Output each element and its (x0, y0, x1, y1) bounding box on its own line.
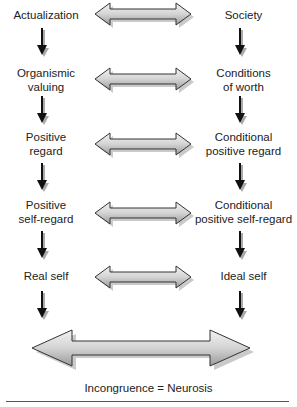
double-arrow-icon (95, 3, 194, 28)
down-arrow-icon (235, 231, 247, 260)
label-conditional-positive-regard: Conditional positive regard (190, 130, 297, 158)
label-real-self: Real self (0, 269, 92, 283)
large-double-arrow-icon (32, 330, 254, 370)
down-arrow-icon (37, 291, 49, 320)
bottom-divider (6, 401, 289, 402)
double-arrow-icon (95, 68, 194, 93)
double-arrow-icon (95, 266, 194, 291)
label-positive-self-regard: Positive self-regard (0, 198, 92, 226)
down-arrow-icon (37, 231, 49, 260)
down-arrow-icon (37, 163, 49, 192)
label-ideal-self: Ideal self (190, 269, 297, 283)
down-arrow-icon (37, 96, 49, 125)
label-positive-regard: Positive regard (0, 130, 92, 158)
down-arrow-icon (235, 291, 247, 320)
caption-incongruence: Incongruence = Neurosis (0, 382, 297, 394)
down-arrow-icon (235, 28, 247, 57)
down-arrow-icon (37, 28, 49, 57)
down-arrow-icon (235, 96, 247, 125)
double-arrow-icon (95, 133, 194, 158)
double-arrow-icon (95, 202, 194, 227)
label-conditional-positive-self-regard: Conditional positive self-regard (190, 198, 297, 226)
label-society: Society (190, 8, 297, 22)
down-arrow-icon (235, 163, 247, 192)
label-organismic-valuing: Organismic valuing (0, 66, 92, 94)
label-conditions-of-worth: Conditions of worth (190, 66, 297, 94)
label-actualization: Actualization (0, 8, 92, 22)
